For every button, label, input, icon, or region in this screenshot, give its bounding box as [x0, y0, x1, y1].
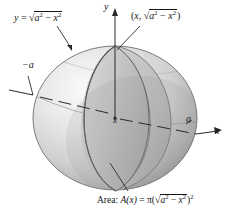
area-function: A(x) [120, 195, 136, 205]
x-axis-label: x [215, 126, 219, 136]
figure-graphic [0, 0, 226, 210]
radicand-x-exponent: 2 [58, 11, 61, 18]
area-caption: Area: A(x) = π(√a2 − x2)2 [97, 194, 193, 206]
radicand-minus: − [171, 195, 176, 205]
curve-equation-lhs: y [14, 12, 18, 23]
area-outer-exponent: 2 [190, 193, 193, 200]
radicand-minus: − [160, 10, 166, 21]
curve-equation-label: y = √a2 − x2 [14, 12, 62, 23]
positive-a-label: a [186, 114, 191, 124]
leader-curve-equation [57, 26, 72, 51]
area-radicand: a2 − x2 [160, 194, 187, 205]
negative-a-label: −a [22, 60, 34, 70]
y-axis-label: y [104, 2, 108, 12]
radicand-x-exponent: 2 [183, 193, 186, 200]
slice-position-label: x [113, 116, 117, 125]
radicand-minus: − [45, 12, 51, 23]
point-comma: , [139, 10, 142, 21]
radicand-a-exponent: 2 [154, 9, 157, 16]
area-equals: = [139, 195, 144, 205]
radicand-x-exponent: 2 [173, 9, 176, 16]
sphere-cross-section-figure: y = √a2 − x2 (x, √a2 − x2) y x −a a x Ar… [0, 0, 226, 210]
curve-equation-equals: = [21, 12, 27, 23]
area-prefix: Area: [97, 195, 118, 205]
radicand-a-exponent: 2 [40, 11, 43, 18]
point-coordinate-label: (x, √a2 − x2) [131, 10, 180, 21]
radicand-a-exponent: 2 [165, 193, 168, 200]
sphere-shadow [66, 76, 214, 204]
curve-equation-radicand: a2 − x2 [34, 11, 62, 23]
leader-point-label [117, 26, 140, 50]
point-close-paren: ) [177, 10, 180, 21]
point-radicand: a2 − x2 [149, 9, 177, 21]
